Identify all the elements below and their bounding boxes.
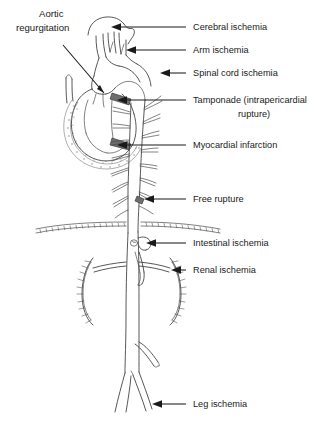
label-aortic-regurgitation-line1: Aortic	[39, 8, 64, 19]
aortic-dissection-diagram: Aortic regurgitation Cerebral ischemia A…	[0, 0, 336, 433]
label-intestinal-ischemia: Intestinal ischemia	[193, 238, 269, 248]
figure-canvas: Aortic regurgitation Cerebral ischemia A…	[0, 0, 336, 433]
leader-spinal-cord-ischemia	[160, 69, 186, 77]
arch-branch-vessels	[96, 32, 126, 58]
label-spinal-cord-ischemia: Spinal cord ischemia	[193, 68, 279, 78]
label-leg-ischemia: Leg ischemia	[193, 399, 248, 409]
leader-lines-group	[63, 23, 186, 408]
label-myocardial-infarction: Myocardial infarction	[193, 140, 277, 150]
label-aortic-regurgitation-line2: regurgitation	[16, 22, 69, 33]
aortic-arch	[88, 17, 134, 44]
iliac-bifurcation	[115, 371, 152, 412]
celiac-and-mesenteric-arteries	[130, 237, 150, 286]
leader-intestinal-ischemia	[146, 239, 186, 247]
leader-leg-ischemia	[152, 400, 186, 408]
label-arm-ischemia: Arm ischemia	[193, 45, 250, 55]
label-tamponade-line1: Tamponade (intrapericardial	[193, 95, 307, 105]
label-free-rupture: Free rupture	[193, 194, 244, 204]
intercostal-arteries-right	[139, 96, 162, 214]
intercostal-arteries-left	[111, 107, 130, 218]
superior-vena-cava	[66, 75, 73, 103]
abdominal-aorta	[125, 232, 139, 373]
left-kidney	[77, 258, 93, 325]
labels-group: Aortic regurgitation Cerebral ischemia A…	[16, 8, 307, 409]
label-cerebral-ischemia: Cerebral ischemia	[193, 22, 268, 32]
label-tamponade-line2: rupture)	[238, 109, 270, 119]
label-renal-ischemia: Renal ischemia	[193, 265, 257, 275]
leader-cerebral-ischemia	[111, 23, 186, 31]
free-rupture-shade	[135, 196, 144, 204]
renal-arteries	[93, 262, 170, 272]
leader-arm-ischemia	[126, 46, 186, 54]
leader-renal-ischemia	[171, 266, 186, 274]
ascending-aorta	[94, 55, 151, 86]
